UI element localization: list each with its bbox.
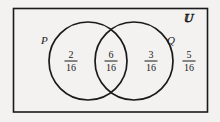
region-value-intersection: 6 16 <box>105 50 118 73</box>
region-denominator: 16 <box>145 62 157 73</box>
region-value-q-only: 3 16 <box>145 50 158 73</box>
region-value-outside: 5 16 <box>183 50 196 73</box>
set-label-p: P <box>41 35 48 46</box>
set-label-q: Q <box>167 35 175 46</box>
region-denominator: 16 <box>105 62 117 73</box>
venn-diagram-figure: 𝕌 P Q 2 16 6 16 3 16 5 16 <box>0 0 220 122</box>
region-numerator: 6 <box>108 50 115 61</box>
region-value-p-only: 2 16 <box>65 50 78 73</box>
region-denominator: 16 <box>183 62 195 73</box>
region-numerator: 3 <box>148 50 155 61</box>
universal-set-label: 𝕌 <box>183 13 193 24</box>
region-numerator: 2 <box>68 50 75 61</box>
region-numerator: 5 <box>186 50 193 61</box>
region-denominator: 16 <box>65 62 77 73</box>
